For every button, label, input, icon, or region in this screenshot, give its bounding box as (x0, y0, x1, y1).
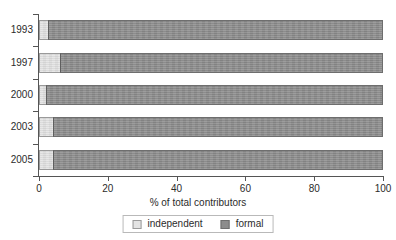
bar-segment-formal[interactable] (53, 117, 383, 137)
y-axis-tick (33, 79, 38, 80)
stacked-bar[interactable] (39, 85, 383, 105)
plot-area (39, 14, 383, 176)
bar-segment-independent[interactable] (39, 20, 48, 40)
x-axis-tick (108, 177, 109, 181)
y-axis-label-2005: 2005 (3, 155, 33, 165)
y-axis-tick (33, 46, 38, 47)
bar-segment-independent[interactable] (39, 150, 53, 170)
y-axis-label-1993: 1993 (3, 25, 33, 35)
legend-swatch-formal-icon (221, 220, 230, 229)
x-axis-label-80: 80 (309, 183, 320, 194)
y-axis-label-1997: 1997 (3, 58, 33, 68)
bar-row (39, 53, 383, 73)
legend-swatch-independent-icon (133, 220, 142, 229)
bar-segment-independent[interactable] (39, 85, 46, 105)
y-axis-tick (33, 176, 38, 177)
bar-segment-formal[interactable] (53, 150, 383, 170)
bar-row (39, 85, 383, 105)
x-axis-tick (177, 177, 178, 181)
y-axis-tick (33, 144, 38, 145)
bar-row (39, 20, 383, 40)
x-axis-label-0: 0 (36, 183, 42, 194)
x-axis-label-20: 20 (102, 183, 113, 194)
stacked-bar[interactable] (39, 20, 383, 40)
stacked-bar[interactable] (39, 150, 383, 170)
x-axis-label-40: 40 (171, 183, 182, 194)
x-axis-tick (383, 177, 384, 181)
x-axis-label-100: 100 (375, 183, 392, 194)
legend-item-formal[interactable]: formal (221, 219, 264, 229)
y-axis-tick (33, 111, 38, 112)
y-axis-labels: 19931997200020032005 (0, 14, 33, 176)
bar-row (39, 150, 383, 170)
x-axis-line (38, 176, 384, 177)
y-axis-label-2000: 2000 (3, 90, 33, 100)
x-axis-label-60: 60 (240, 183, 251, 194)
y-axis-tick (33, 14, 38, 15)
stacked-bar[interactable] (39, 117, 383, 137)
bar-row (39, 117, 383, 137)
y-axis-label-2003: 2003 (3, 122, 33, 132)
bar-segment-formal[interactable] (48, 20, 383, 40)
bar-segment-independent[interactable] (39, 53, 60, 73)
bar-segment-formal[interactable] (46, 85, 383, 105)
legend: independent formal (123, 215, 274, 233)
bar-segment-independent[interactable] (39, 117, 53, 137)
x-axis-tick (245, 177, 246, 181)
legend-label-formal: formal (236, 219, 264, 229)
legend-item-independent[interactable]: independent (133, 219, 203, 229)
bar-segment-formal[interactable] (60, 53, 383, 73)
x-axis-tick (314, 177, 315, 181)
stacked-bar[interactable] (39, 53, 383, 73)
bar-chart: 19931997200020032005 % of total contribu… (0, 0, 396, 240)
x-axis-tick (39, 177, 40, 181)
legend-label-independent: independent (148, 219, 203, 229)
x-axis-title: % of total contributors (0, 197, 396, 209)
